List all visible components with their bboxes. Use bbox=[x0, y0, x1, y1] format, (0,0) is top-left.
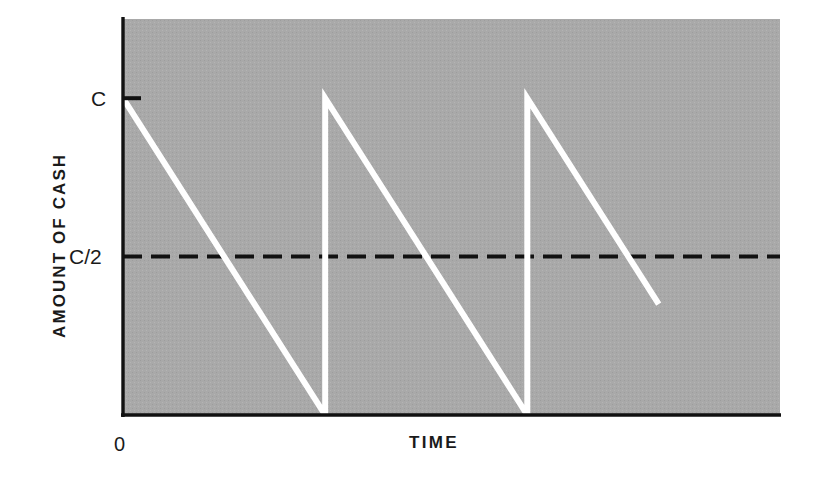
plot-area-background bbox=[123, 19, 780, 415]
y-tick-label-c-half: C/2 bbox=[69, 246, 102, 267]
x-axis-title: TIME bbox=[409, 434, 459, 451]
y-axis-title: AMOUNT OF CASH bbox=[51, 153, 68, 338]
chart-figure: AMOUNT OF CASH TIME C C/2 0 bbox=[0, 0, 815, 484]
chart-plot-svg bbox=[0, 0, 815, 484]
origin-label: 0 bbox=[114, 434, 125, 454]
y-tick-label-c: C bbox=[91, 88, 106, 109]
